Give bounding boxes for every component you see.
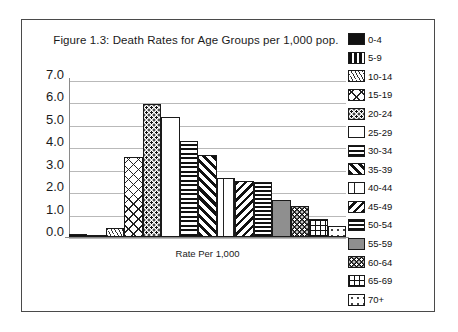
legend-item-40-44: 40-44 (348, 179, 426, 198)
legend-swatch-icon (348, 294, 365, 306)
legend-item-label: 0-4 (368, 35, 382, 45)
bar-70+ (328, 226, 346, 237)
x-axis-label: Rate Per 1,000 (69, 248, 346, 259)
legend-item-55-59: 55-59 (348, 235, 426, 254)
bar-10-14 (106, 228, 124, 237)
legend-swatch-icon (348, 126, 365, 138)
legend-item-45-49: 45-49 (348, 197, 426, 216)
y-axis-tick-label: 2.0 (46, 180, 64, 193)
bar-50-54 (254, 182, 272, 237)
legend-swatch-icon (348, 108, 365, 120)
bar-65-69 (309, 219, 327, 237)
figure-frame: Figure 1.3: Death Rates for Age Groups p… (21, 19, 435, 312)
y-axis-tick-label: 4.0 (46, 135, 64, 148)
legend-item-60-64: 60-64 (348, 253, 426, 272)
legend-swatch-icon (348, 256, 365, 268)
bar-15-19 (124, 157, 142, 237)
legend-swatch-icon (348, 163, 365, 175)
legend-item-0-4: 0-4 (348, 30, 426, 49)
legend-item-label: 65-69 (368, 276, 392, 286)
legend: 0-45-910-1415-1920-2425-2930-3435-3940-4… (348, 30, 426, 309)
legend-item-label: 5-9 (368, 53, 382, 63)
legend-swatch-icon (348, 52, 365, 64)
y-axis-tick-label: 7.0 (46, 68, 64, 81)
bar-60-64 (291, 206, 309, 237)
legend-swatch-icon (348, 182, 365, 194)
legend-swatch-icon (348, 70, 365, 82)
legend-item-10-14: 10-14 (348, 67, 426, 86)
bar-20-24 (143, 104, 161, 237)
y-axis-tick-label: 6.0 (46, 90, 64, 103)
legend-item-20-24: 20-24 (348, 104, 426, 123)
legend-item-label: 30-34 (368, 146, 392, 156)
bar-0-4 (69, 234, 87, 237)
legend-item-70+: 70+ (348, 290, 426, 309)
bar-30-34 (180, 141, 198, 237)
bar-55-59 (272, 200, 290, 237)
legend-item-label: 10-14 (368, 72, 392, 82)
legend-item-5-9: 5-9 (348, 49, 426, 68)
bar-40-44 (217, 178, 235, 237)
legend-item-label: 45-49 (368, 202, 392, 212)
y-axis-tick-label: 1.0 (46, 202, 64, 215)
legend-item-label: 20-24 (368, 109, 392, 119)
plot-area (69, 81, 346, 238)
legend-item-label: 25-29 (368, 128, 392, 138)
legend-swatch-icon (348, 145, 365, 157)
legend-item-50-54: 50-54 (348, 216, 426, 235)
legend-item-65-69: 65-69 (348, 272, 426, 291)
legend-item-label: 55-59 (368, 239, 392, 249)
legend-swatch-icon (348, 219, 365, 231)
bar-35-39 (198, 155, 216, 237)
legend-swatch-icon (348, 238, 365, 250)
legend-item-label: 40-44 (368, 183, 392, 193)
bar-25-29 (161, 117, 179, 237)
y-axis-tick-labels: 7.06.05.04.03.02.01.00.0 (22, 74, 66, 244)
y-axis-tick-label: 5.0 (46, 112, 64, 125)
bar-5-9 (87, 235, 105, 237)
legend-item-label: 50-54 (368, 220, 392, 230)
legend-item-30-34: 30-34 (348, 142, 426, 161)
legend-item-35-39: 35-39 (348, 160, 426, 179)
bar-45-49 (235, 181, 253, 237)
legend-item-label: 70+ (368, 295, 384, 305)
legend-item-25-29: 25-29 (348, 123, 426, 142)
x-axis-line (65, 237, 349, 238)
chart-title: Figure 1.3: Death Rates for Age Groups p… (36, 34, 356, 46)
legend-swatch-icon (348, 275, 365, 287)
legend-item-15-19: 15-19 (348, 86, 426, 105)
gridline (69, 238, 346, 239)
bar-series (69, 81, 346, 237)
y-axis-tick-label: 3.0 (46, 157, 64, 170)
legend-swatch-icon (348, 201, 365, 213)
legend-swatch-icon (348, 89, 365, 101)
legend-item-label: 60-64 (368, 258, 392, 268)
y-axis-tick-label: 0.0 (46, 225, 64, 238)
legend-item-label: 15-19 (368, 90, 392, 100)
legend-item-label: 35-39 (368, 165, 392, 175)
legend-swatch-icon (348, 33, 365, 45)
